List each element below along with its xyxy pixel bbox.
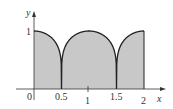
graph-svg: y x 1 0 0.5 1 1.5 2 [0, 0, 173, 109]
x-tick-label-0.5: 0.5 [55, 91, 68, 102]
shaded-region [34, 31, 144, 89]
x-axis-arrow-icon [160, 87, 166, 91]
graph-figure: y x 1 0 0.5 1 1.5 2 [0, 0, 173, 109]
x-tick-label-1.5: 1.5 [110, 91, 123, 102]
x-tick-label-2: 2 [141, 95, 146, 106]
x-axis-label: x [156, 93, 162, 104]
y-axis-label: y [25, 7, 31, 18]
x-tick-label-1: 1 [85, 95, 90, 106]
y-axis-arrow-icon [32, 11, 36, 17]
y-tick-label-1: 1 [26, 26, 31, 37]
x-tick-label-0: 0 [27, 91, 32, 102]
